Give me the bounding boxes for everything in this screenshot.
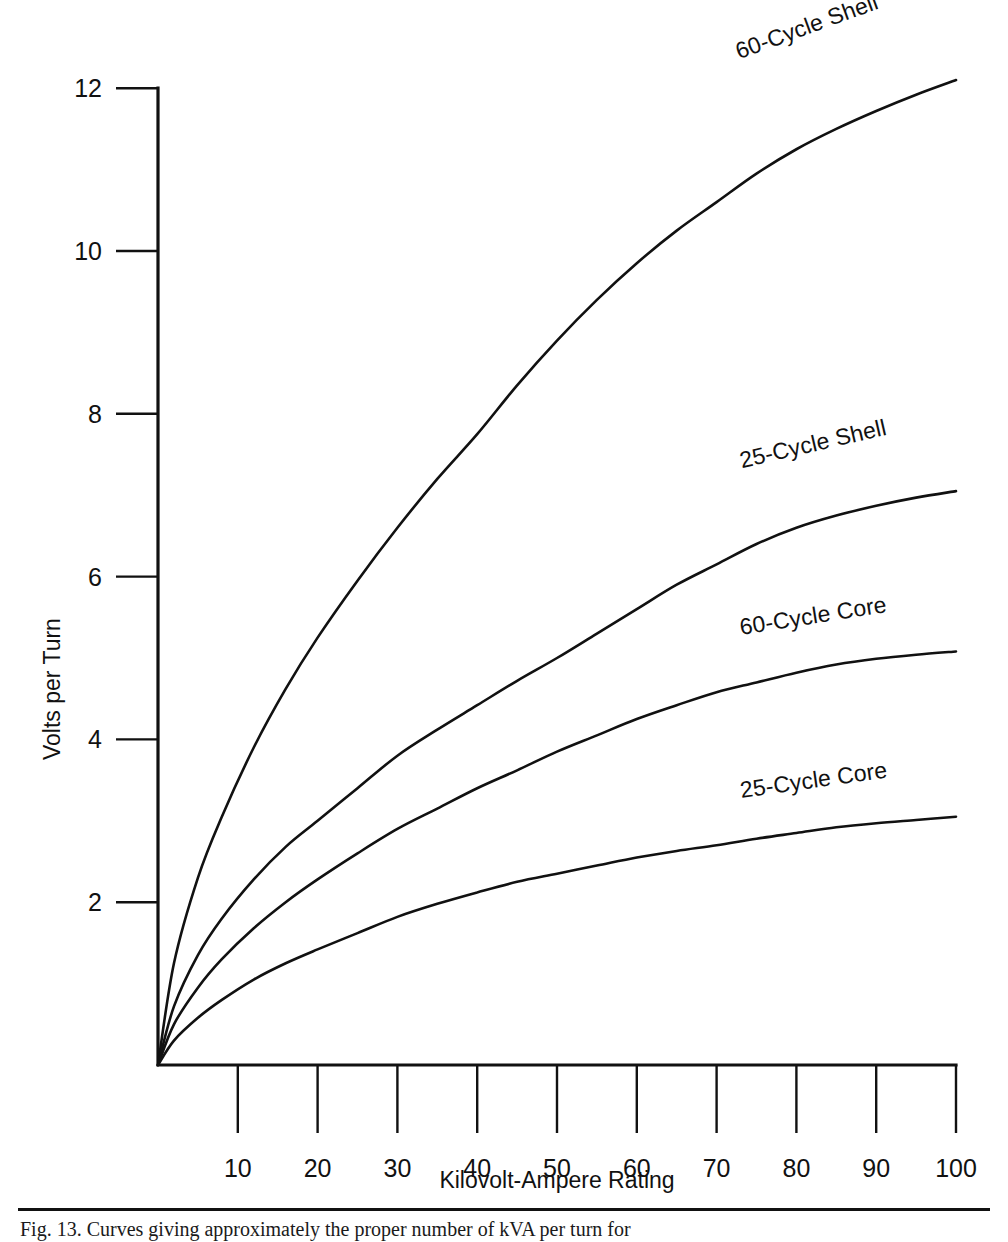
series-curves-group bbox=[158, 80, 956, 1065]
x-tick-label-30: 30 bbox=[383, 1154, 411, 1182]
y-axis-tick-group bbox=[116, 88, 158, 902]
x-tick-label-70: 70 bbox=[703, 1154, 731, 1182]
axis-lines-group bbox=[158, 88, 956, 1065]
y-tick-label-8: 8 bbox=[88, 400, 102, 428]
figure-caption: Fig. 13. Curves giving approximately the… bbox=[20, 1216, 988, 1242]
x-tick-label-80: 80 bbox=[782, 1154, 810, 1182]
axis-frame bbox=[158, 88, 956, 1065]
curve-60-cycle-shell bbox=[158, 80, 956, 1065]
x-axis-tick-group bbox=[238, 1065, 956, 1133]
x-tick-label-100: 100 bbox=[935, 1154, 977, 1182]
curve-60-cycle-core bbox=[158, 651, 956, 1065]
y-tick-label-2: 2 bbox=[88, 888, 102, 916]
y-tick-label-10: 10 bbox=[74, 237, 102, 265]
y-tick-label-12: 12 bbox=[74, 74, 102, 102]
y-tick-label-6: 6 bbox=[88, 563, 102, 591]
caption-divider-rule bbox=[18, 1208, 990, 1211]
x-tick-label-90: 90 bbox=[862, 1154, 890, 1182]
x-axis-title: Kilovolt-Ampere Rating bbox=[439, 1167, 674, 1193]
y-axis-title: Volts per Turn bbox=[39, 618, 65, 760]
y-axis-tick-labels: 24681012 bbox=[74, 74, 102, 916]
y-tick-label-4: 4 bbox=[88, 725, 102, 753]
x-tick-label-20: 20 bbox=[304, 1154, 332, 1182]
x-tick-label-10: 10 bbox=[224, 1154, 252, 1182]
